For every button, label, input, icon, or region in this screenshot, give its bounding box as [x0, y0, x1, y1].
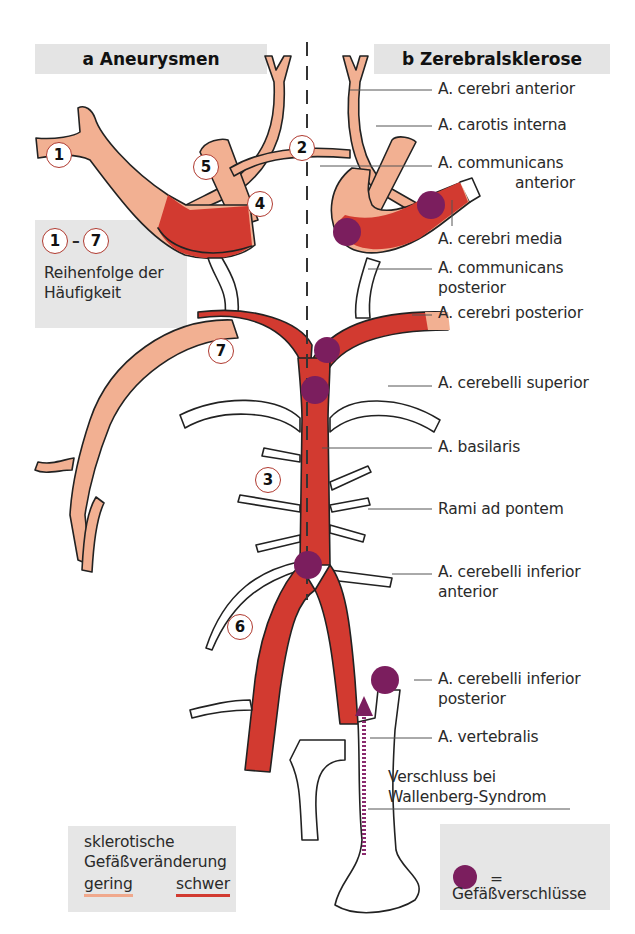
aneurysm-number-7: 7 [208, 338, 234, 364]
label-cerebelli-inferior-anterior-1: A. cerebelli inferior [438, 563, 581, 582]
label-communicans-posterior-2: posterior [438, 279, 506, 298]
aneurysm-number-5: 5 [193, 154, 219, 180]
label-cerebri-posterior: A. cerebri posterior [438, 304, 583, 323]
label-communicans-anterior-1: A. communicans [438, 154, 563, 173]
label-wallenberg-2: Wallenberg-Syndrom [388, 788, 546, 807]
sclerosis-legend-severe: schwer [176, 875, 230, 897]
frequency-legend-line1: Reihenfolge der [44, 264, 163, 283]
frequency-legend-line2: Häufigkeit [44, 284, 121, 303]
sclerosis-legend-mild: gering [84, 875, 133, 897]
legend-number-end: 7 [83, 228, 109, 254]
label-cerebri-anterior: A. cerebri anterior [438, 80, 575, 99]
aneurysm-number-3: 3 [255, 467, 281, 493]
legend-number-start: 1 [42, 228, 68, 254]
label-cerebri-media: A. cerebri media [438, 230, 562, 249]
aneurysm-number-4: 4 [247, 191, 273, 217]
label-rami-ad-pontem: Rami ad pontem [438, 500, 564, 519]
label-cerebelli-inferior-posterior-2: posterior [438, 690, 506, 709]
sclerosis-legend-line1: sklerotische [84, 833, 174, 852]
label-basilaris: A. basilaris [438, 438, 520, 457]
label-wallenberg-1: Verschluss bei [388, 768, 496, 787]
occlusion-legend-text: Gefäßverschlüsse [452, 885, 586, 904]
aneurysm-number-2: 2 [289, 135, 315, 161]
label-cerebelli-inferior-posterior-1: A. cerebelli inferior [438, 670, 581, 689]
aneurysm-number-6: 6 [227, 614, 253, 640]
label-cerebelli-inferior-anterior-2: anterior [438, 583, 498, 602]
label-cerebelli-superior: A. cerebelli superior [438, 374, 589, 393]
legend-range-dash: – [72, 232, 80, 251]
label-carotis-interna: A. carotis interna [438, 116, 567, 135]
aneurysm-number-1: 1 [46, 142, 72, 168]
label-vertebralis: A. vertebralis [438, 728, 538, 747]
label-communicans-anterior-2: anterior [515, 174, 575, 193]
label-communicans-posterior-1: A. communicans [438, 259, 563, 278]
sclerosis-legend-line2: Gefäßveränderung [84, 853, 227, 872]
